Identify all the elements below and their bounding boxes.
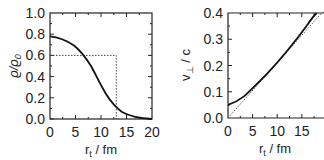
left-xtick-4: 20 [144,124,160,140]
left-ytick-1: 0.2 [26,90,46,106]
left-ytick-5: 1.0 [26,5,46,21]
left-x-tick-labels: 0 5 10 15 20 [46,124,160,140]
figure: 0.0 0.2 0.4 0.6 0.8 1.0 0 5 10 15 20 rt … [0,0,324,160]
left-xtick-0: 0 [46,124,54,140]
right-xtick-0: 0 [224,123,232,139]
right-ytick-0: 0.0 [204,110,224,126]
right-chart: 0.0 0.1 0.2 0.3 0.4 0 5 10 15 rt / fm v⊥… [178,5,324,158]
right-xtick-2: 10 [269,123,285,139]
right-xtick-1: 5 [249,123,257,139]
right-x-tick-labels: 0 5 10 15 [224,123,310,139]
right-ytick-1: 0.1 [204,84,224,100]
left-xtick-2: 10 [93,124,109,140]
left-y-axis-label: ϱ/ϱ0 [6,54,23,78]
left-xtick-3: 15 [119,124,135,140]
right-ticks [228,13,314,118]
right-x-axis-label: rt / fm [259,141,291,158]
right-velocity-curve [228,13,317,105]
right-y-tick-labels: 0.0 0.1 0.2 0.3 0.4 [204,5,224,126]
left-ytick-0: 0.0 [26,111,46,127]
right-ytick-3: 0.3 [204,31,224,47]
left-plot-frame [50,13,152,119]
left-density-curve [50,36,152,119]
left-y-tick-labels: 0.0 0.2 0.4 0.6 0.8 1.0 [26,5,46,127]
left-ticks [50,13,152,119]
left-chart: 0.0 0.2 0.4 0.6 0.8 1.0 0 5 10 15 20 rt … [6,5,160,159]
right-xtick-3: 15 [294,123,310,139]
left-ytick-3: 0.6 [26,47,46,63]
right-y-axis-label: v⊥ / c [178,49,195,81]
left-x-axis-label: rt / fm [85,142,117,159]
right-ytick-4: 0.4 [204,5,224,21]
left-dotted-reference-line [50,55,116,119]
left-ytick-4: 0.8 [26,26,46,42]
right-ytick-2: 0.2 [204,58,224,74]
left-ytick-2: 0.4 [26,69,46,85]
left-xtick-1: 5 [72,124,80,140]
